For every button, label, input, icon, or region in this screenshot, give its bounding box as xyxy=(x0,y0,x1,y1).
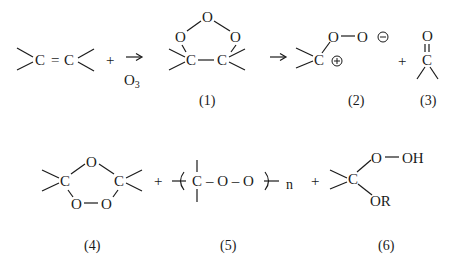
compound-label: (3) xyxy=(420,93,437,109)
compound-label: (1) xyxy=(199,93,216,109)
repeat-index: n xyxy=(286,177,293,192)
bond-line xyxy=(71,164,85,174)
compound-2-carbonyl-oxide: C O O (2) xyxy=(296,29,388,109)
bond-line xyxy=(126,170,142,178)
compound-6-alkoxy-hydroperoxide: C O OH OR (6) xyxy=(330,150,424,254)
bond-line xyxy=(357,160,371,172)
bond-line xyxy=(229,49,245,57)
atom-oxygen: O xyxy=(422,28,433,44)
atom-carbon: C xyxy=(314,52,324,68)
compound-5-polymeric-peroxide: C – O – O n (5) xyxy=(172,160,293,254)
double-bond: = xyxy=(51,52,59,68)
atom-carbon: C xyxy=(217,52,227,68)
bond-line xyxy=(17,62,33,70)
compound-label: (6) xyxy=(378,238,395,254)
bond-line xyxy=(42,170,59,178)
bond-line xyxy=(126,183,142,191)
atom-carbon: C xyxy=(186,52,196,68)
compound-3-carbonyl: O C (3) xyxy=(417,28,438,109)
positive-charge-icon xyxy=(332,56,342,66)
bond-line xyxy=(330,182,347,189)
hydroxyl-group: OH xyxy=(402,150,424,166)
atom-carbon: C xyxy=(422,52,432,68)
atom-oxygen: O xyxy=(101,196,112,212)
atom-oxygen: O xyxy=(357,29,368,45)
peroxide-chain: – O – O xyxy=(205,173,254,189)
bond-line xyxy=(296,48,313,56)
atom-oxygen: O xyxy=(86,154,97,170)
atom-carbon: C xyxy=(192,173,202,189)
compound-label: (4) xyxy=(84,238,101,254)
bond-line xyxy=(417,67,425,79)
bond-line xyxy=(330,170,347,178)
bond-line xyxy=(182,45,186,52)
atom-carbon: C xyxy=(60,173,70,189)
compound-1-molozonide: O O O C C (1) xyxy=(169,9,245,109)
atom-carbon: C xyxy=(348,171,358,187)
reaction-arrow-1: O3 xyxy=(124,54,142,91)
negative-charge-icon xyxy=(378,32,388,42)
bond-line xyxy=(229,62,245,70)
atom-oxygen: O xyxy=(71,196,82,212)
bond-line xyxy=(231,45,236,52)
reaction-scheme: C = C + O3 O O O C C (1) C xyxy=(0,0,454,265)
plus-sign: + xyxy=(106,52,114,68)
atom-oxygen: O xyxy=(371,150,382,166)
compound-label: (5) xyxy=(220,238,237,254)
atom-oxygen: O xyxy=(328,29,339,45)
bond-line xyxy=(42,183,59,191)
bond-line xyxy=(17,48,33,57)
compound-label: (2) xyxy=(348,93,365,109)
bond-line xyxy=(430,67,438,79)
bond-line xyxy=(187,21,201,31)
alkoxy-group: OR xyxy=(370,193,391,209)
plus-sign: + xyxy=(154,173,162,189)
alkene-reactant: C = C xyxy=(17,48,94,71)
atom-oxygen: O xyxy=(230,29,241,45)
atom-carbon: C xyxy=(64,52,74,68)
reagent-ozone: O3 xyxy=(124,72,140,90)
bond-line xyxy=(99,164,114,174)
atom-carbon: C xyxy=(114,173,124,189)
atom-oxygen: O xyxy=(202,9,213,25)
atom-oxygen: O xyxy=(175,29,186,45)
atom-carbon: C xyxy=(35,52,45,68)
bond-line xyxy=(78,62,94,71)
bond-line xyxy=(296,61,313,68)
bond-line xyxy=(113,190,118,197)
bond-line xyxy=(169,62,185,70)
bond-line xyxy=(78,49,94,58)
compound-4-ozonide: C O C O O (4) xyxy=(42,154,142,254)
plus-sign: + xyxy=(398,53,406,69)
bond-line xyxy=(214,21,230,31)
plus-sign: + xyxy=(311,173,319,189)
bond-line xyxy=(169,49,185,57)
reaction-arrow-2 xyxy=(270,54,286,61)
